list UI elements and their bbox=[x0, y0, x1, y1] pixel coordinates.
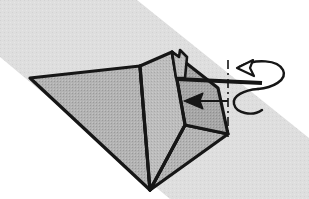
origami-diagram-canvas bbox=[0, 0, 309, 199]
origami-diagram-root bbox=[0, 0, 309, 199]
model-apex-flap bbox=[172, 50, 187, 78]
